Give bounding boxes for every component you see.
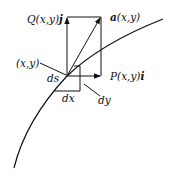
a-vector-arrow — [67, 18, 100, 76]
p-vector-label: P(x,y)i — [109, 70, 144, 82]
vector-field-diagram: Q(x,y)j a(x,y) P(x,y)i (x,y) ds dx dy — [0, 0, 172, 183]
curve — [14, 19, 163, 168]
point-label: (x,y) — [16, 57, 39, 69]
dx-label: dx — [62, 92, 75, 104]
q-vector-label: Q(x,y)j — [27, 13, 63, 26]
dy-label: dy — [98, 94, 112, 106]
ds-label: ds — [47, 72, 60, 84]
a-vector-label: a(x,y) — [110, 11, 140, 23]
